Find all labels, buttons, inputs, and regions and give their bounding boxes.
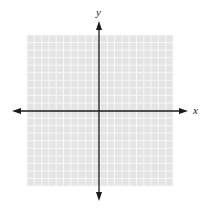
arrow-right-icon [179, 108, 188, 114]
y-axis-label: y [96, 7, 101, 18]
arrow-left-icon [12, 108, 21, 114]
coordinate-plane-graphic [0, 0, 205, 209]
arrow-up-icon [96, 21, 102, 30]
x-axis-label: x [193, 105, 198, 116]
arrow-down-icon [96, 192, 102, 201]
